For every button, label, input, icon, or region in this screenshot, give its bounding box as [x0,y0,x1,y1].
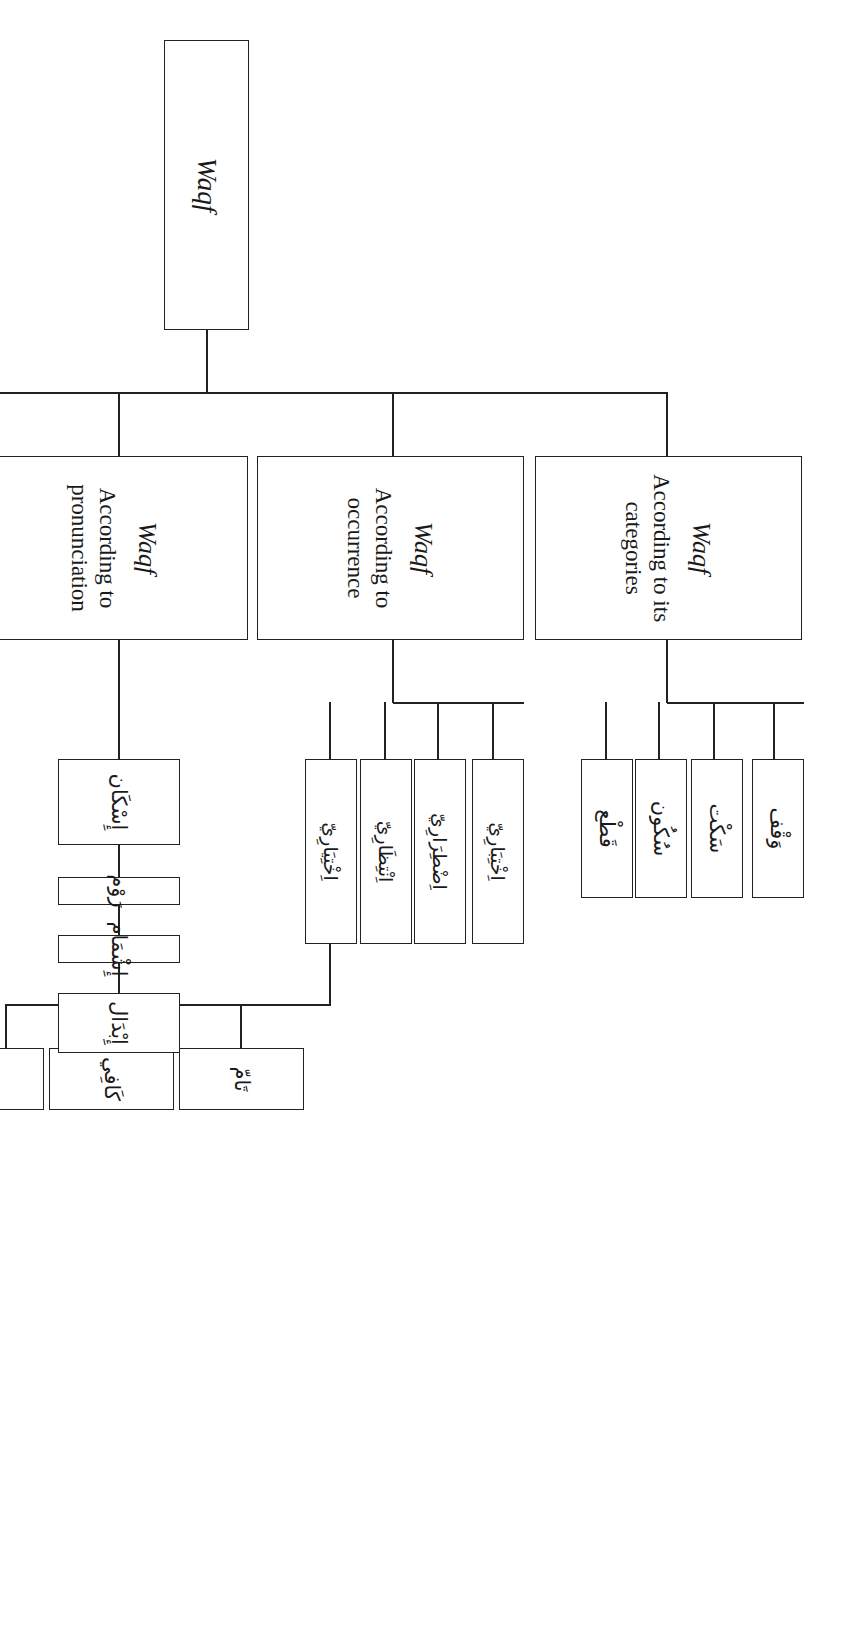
connector-subleaf-4 [5,1004,7,1049]
leaf-node-idtirari: اِضْطِرَارِيّ [414,759,466,944]
leaf-label: قَطْع [594,809,621,847]
connector-categories-leaf-2 [713,702,715,760]
connector-occurrence-out [392,640,394,703]
leaf-label: اِخْتِيَارِيّ [319,822,343,880]
leaf-node-ikhtiyari: اِخْتِيَارِيّ [305,759,357,944]
connector-categories-leaf-4 [605,702,607,760]
leaf-label: اِنْتِظَارِيّ [374,821,398,883]
connector-categories-leaf-1 [773,702,775,760]
leaf-node-sakt: سَكْت [691,759,743,898]
connector-subleaves-bus-upper [241,1004,331,1006]
leaf-node-waqf: وَقْف [752,759,804,898]
branch-keyword-pronunciation: Waqf [131,522,164,575]
leaf-label: اِخْتِبَارِيّ [486,822,510,880]
diagram-rotation-wrapper: Waqf Waqf According to its categories وَ… [0,0,864,1631]
leaf-label: رَوْم [106,874,133,907]
branch-keyword-categories: Waqf [685,522,718,575]
branch-description-occurrence: According to occurrence [341,459,397,637]
leaf-node-ibdal: إِبْدَال [58,993,180,1053]
branch-description-categories: According to its categories [619,459,675,637]
leaf-node-hasan: حَسَن [0,1048,44,1110]
leaf-node-ishmam: إِشْمَام [58,935,180,963]
leaf-label: اِضْطِرَارِيّ [428,813,452,890]
branch-description-pronunciation: According to pronunciation [65,459,121,637]
connector-spine-to-categories [666,392,668,456]
connector-subleaf-1 [240,1004,242,1049]
connector-branch-spine [0,392,668,394]
connector-occurrence-leaf-4 [329,702,331,760]
branch-node-categories: Waqf According to its categories [535,456,802,640]
leaf-node-intizari: اِنْتِظَارِيّ [360,759,412,944]
leaf-label: إِسْكَان [106,774,133,831]
leaf-label: وَقْف [765,808,792,850]
connector-pronunciation-out [118,640,120,728]
branch-node-pronunciation: Waqf According to pronunciation [0,456,248,640]
connector-spine-to-occurrence [392,392,394,456]
leaf-node-qat: قَطْع [581,759,633,898]
connector-spine-to-pronunciation [118,392,120,456]
root-node-label: Waqf [189,158,224,213]
leaf-node-iskan: إِسْكَان [58,759,180,845]
leaf-label: إِشْمَام [106,922,133,977]
connector-occurrence-leaf-1 [492,702,494,760]
connector-categories-leaf-3 [658,702,660,760]
connector-ikhtiyari-out [329,944,331,1005]
leaf-label: تَامّ [228,1066,255,1091]
leaf-node-rawm: رَوْم [58,877,180,905]
leaf-label: سُكُون [648,801,675,856]
branch-keyword-occurrence: Waqf [407,522,440,575]
connector-root-to-spine [206,330,208,393]
connector-occurrence-leaf-2 [437,702,439,760]
leaf-node-taam: تَامّ [179,1048,304,1110]
connector-categories-bus [667,702,804,704]
leaf-label: كَافِي [98,1057,125,1101]
leaf-label: إِبْدَال [106,1001,133,1045]
connector-occurrence-leaf-3 [384,702,386,760]
connector-pronunciation-leaf-1 [118,727,120,760]
branch-node-occurrence: Waqf According to occurrence [257,456,524,640]
leaf-label: سَكْت [704,804,731,854]
root-node-waqf: Waqf [164,40,249,330]
connector-pronunciation-leaf-2 [118,845,120,878]
connector-occurrence-bus [393,702,524,704]
diagram-canvas: Waqf Waqf According to its categories وَ… [0,0,864,1631]
leaf-node-ikhtibari: اِخْتِبَارِيّ [472,759,524,944]
leaf-node-kaafi: كَافِي [49,1048,174,1110]
leaf-node-sukoon-categories: سُكُون [635,759,687,898]
connector-categories-out [666,640,668,703]
